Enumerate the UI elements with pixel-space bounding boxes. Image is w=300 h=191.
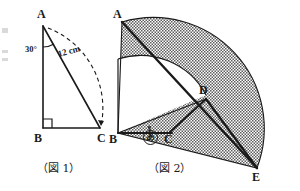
figure1-vertex-label-C: C [97, 132, 106, 144]
figure2-vertex-label-E: E [252, 171, 260, 183]
figure2-vertex-label-B: B [109, 133, 117, 145]
figure1-vertex-label-A: A [37, 8, 46, 20]
figure1-angle-label-A: 30° [25, 45, 37, 54]
page-edge-artifact-top [2, 28, 8, 33]
figure1-caption: （図 1） [37, 163, 81, 174]
figure1-vertex-label-B: B [34, 132, 42, 144]
figure-sheet: A B C 30° 12 cm （図 1） A B C D E あ （図 2） [0, 0, 300, 191]
page-edge-artifact-mid [2, 50, 8, 53]
figure2-vertex-label-A: A [113, 8, 122, 20]
figure2-marked-angle-symbol: あ [143, 130, 158, 145]
figure2-vertex-label-D: D [199, 84, 208, 96]
page-edge-artifact-bottom [2, 58, 8, 61]
figure2-vertex-label-C: C [164, 133, 173, 145]
figure2-caption: （図 2） [148, 163, 192, 174]
